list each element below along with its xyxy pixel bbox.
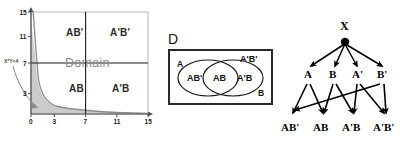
y-tick-label-3: 3: [23, 90, 27, 97]
tree-node-a: A: [304, 68, 312, 80]
tree-leaf-a-prime-b: A'B: [342, 121, 360, 133]
tree-node-b: B: [329, 68, 336, 80]
venn-region-outside: A'B': [240, 54, 257, 64]
venn-universe-label: D: [168, 31, 178, 47]
x-tick-label-7: 7: [84, 118, 88, 125]
tree-root-label: X: [340, 19, 349, 34]
tree-leaf-ab: AB: [313, 121, 328, 133]
quadrant-label-top-left: AB': [66, 27, 83, 38]
tree-leaf-ab-prime: AB': [281, 121, 299, 133]
edge-x-to-a: [311, 45, 343, 66]
venn-set-a-label: A: [177, 59, 183, 69]
figure-container: AB' A'B' AB A'B Domain X*Y<4 0 3 7 11 15…: [0, 0, 410, 143]
edge-b-to-a-prime-b: [336, 84, 353, 113]
x-tick-label-3: 3: [52, 118, 56, 125]
y-tick-label-11: 11: [20, 33, 27, 40]
edge-x-to-b-prime: [347, 45, 382, 66]
tree-node-a-prime: A': [352, 68, 363, 80]
venn-region-b-only: A'B: [237, 73, 252, 83]
edge-b-prime-to-a-prime-b-prime: [384, 84, 386, 113]
y-tick-label-15: 15: [20, 9, 27, 16]
tree-leaf-a-prime-b-prime: A'B': [373, 121, 394, 133]
x-tick-label-0: 0: [29, 118, 33, 125]
tree-diagram: X A B A' B' AB' AB A'B A'B': [280, 0, 410, 143]
cartesian-quadrant-plot: AB' A'B' AB A'B Domain X*Y<4 0 3 7 11 15…: [0, 0, 160, 143]
venn-set-b-label: B: [258, 88, 264, 98]
edge-a-prime-to-a-prime-b: [354, 84, 357, 113]
edge-a-to-ab: [310, 84, 323, 113]
y-tick-label-7: 7: [23, 60, 27, 67]
quadrant-label-bottom-right: A'B: [112, 83, 129, 94]
tree-node-b-prime: B': [377, 68, 387, 80]
curve-inequality-annotation: X*Y<4: [4, 58, 18, 64]
edge-x-to-a-prime: [346, 46, 357, 66]
venn-graphics: [160, 0, 280, 143]
venn-region-intersection: AB: [213, 73, 226, 83]
plot-graphics: [0, 0, 160, 143]
venn-diagram: D A B AB' AB A'B A'B': [160, 0, 280, 143]
domain-label: Domain: [65, 56, 110, 70]
x-tick-label-11: 11: [113, 118, 120, 125]
venn-region-a-only: AB': [187, 73, 202, 83]
quadrant-label-bottom-left: AB: [69, 83, 84, 94]
x-tick-label-15: 15: [145, 118, 152, 125]
quadrant-label-top-right: A'B': [110, 27, 130, 38]
